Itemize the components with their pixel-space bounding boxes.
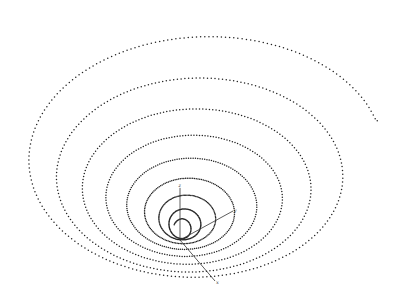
spiral-dot	[204, 254, 206, 256]
spiral-dot	[189, 243, 191, 245]
spiral-dot	[31, 179, 33, 181]
spiral-dot	[249, 269, 251, 271]
spiral-dot	[324, 223, 326, 225]
spiral-dot	[217, 36, 219, 38]
spiral-dot	[192, 157, 194, 159]
spiral-dot	[126, 208, 128, 210]
spiral-dot	[128, 193, 130, 195]
spiral-dot	[204, 180, 206, 182]
spiral-dot	[174, 179, 176, 181]
spiral-dot	[92, 220, 94, 222]
spiral-dot	[290, 99, 292, 101]
spiral-dot	[145, 205, 147, 207]
spiral-dot	[234, 170, 236, 172]
spiral-dot	[108, 212, 110, 214]
spiral-dot	[259, 156, 261, 158]
spiral-dot	[186, 256, 188, 258]
spiral-dot	[69, 135, 71, 137]
spiral-dot	[211, 182, 213, 184]
spiral-dot	[179, 158, 181, 160]
spiral-dot	[144, 257, 146, 259]
spiral-dot	[83, 198, 85, 200]
spiral-dot	[299, 105, 301, 107]
spiral-dot	[199, 255, 201, 257]
spiral-dot	[243, 177, 245, 179]
spiral-dot	[117, 165, 119, 167]
spiral-dot	[282, 135, 284, 137]
spiral-dot	[224, 164, 226, 166]
spiral-dot	[247, 83, 249, 85]
spiral-dot	[201, 239, 203, 241]
spiral-dot	[151, 167, 153, 169]
spiral-dot	[243, 251, 245, 253]
spiral-dot	[191, 263, 193, 265]
spiral-dot	[107, 101, 109, 103]
spiral-dot	[279, 94, 281, 96]
spiral-dot	[82, 72, 84, 74]
spiral-dot	[154, 251, 156, 253]
spiral-dot	[271, 128, 273, 130]
spiral-dot	[160, 237, 162, 239]
spiral-dot	[155, 273, 157, 275]
spiral-dot	[144, 206, 146, 208]
spiral-dot	[158, 235, 160, 237]
spiral-dot	[213, 242, 215, 244]
spiral-dot	[247, 148, 249, 150]
spiral-dot	[263, 237, 265, 239]
spiral-dot	[177, 79, 179, 81]
spiral-dot	[126, 260, 128, 262]
spiral-dot	[106, 236, 108, 238]
spiral-dot	[113, 133, 115, 135]
spiral-dot	[231, 201, 233, 203]
spiral-dot	[218, 78, 220, 80]
spiral-dot	[61, 203, 63, 205]
spiral-dot	[105, 200, 107, 202]
spiral-dot	[29, 147, 31, 149]
spiral-dot	[103, 59, 105, 61]
spiral-dot	[254, 218, 256, 220]
spiral-dot	[159, 252, 161, 254]
spiral-dot	[79, 230, 81, 232]
spiral-dot	[59, 154, 61, 156]
spiral-dot	[167, 240, 169, 242]
spiral-dot	[162, 245, 164, 247]
spiral-dot	[260, 266, 262, 268]
spiral-dot	[138, 232, 140, 234]
spiral-dot	[133, 241, 135, 243]
spiral-dot	[164, 254, 166, 256]
spiral-dot	[202, 271, 204, 273]
spiral-dot	[140, 175, 142, 177]
spiral-dot	[342, 177, 344, 179]
spiral-dot	[246, 181, 248, 183]
spiral-dot	[56, 182, 58, 184]
spiral-dot	[190, 248, 192, 250]
spiral-dot	[97, 228, 99, 230]
spiral-dot	[191, 242, 193, 244]
spiral-dot	[275, 221, 277, 223]
spiral-dot	[174, 136, 176, 138]
spiral-dot	[335, 207, 337, 209]
spiral-dot	[179, 276, 181, 278]
spiral-dot	[193, 242, 195, 244]
spiral-dot	[212, 109, 214, 111]
spiral-dot	[72, 79, 74, 81]
spiral-dot	[107, 210, 109, 212]
z-axis-label: z	[178, 182, 182, 188]
spiral-dot	[309, 176, 311, 178]
spiral-dot	[155, 140, 157, 142]
spiral-dot	[194, 276, 196, 278]
spiral-dot	[151, 43, 153, 45]
spiral-dot	[133, 88, 135, 90]
spiral-dot	[180, 249, 182, 251]
spiral-dot	[341, 185, 343, 187]
spiral-dot	[195, 77, 197, 79]
spiral-dot	[113, 254, 115, 256]
spiral-dot	[195, 178, 197, 180]
spiral-dot	[221, 259, 223, 261]
spiral-plot: z y x	[0, 0, 395, 300]
spiral-dot	[152, 192, 154, 194]
spiral-dot	[91, 251, 93, 253]
spiral-dot	[28, 163, 30, 165]
spiral-dot	[158, 140, 160, 142]
spiral-dot	[124, 266, 126, 268]
